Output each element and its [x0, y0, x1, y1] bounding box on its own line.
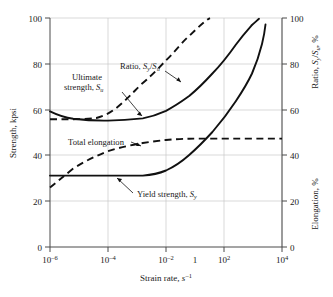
y-axis-right-bottom-title: Elongation, %	[310, 178, 320, 230]
strain-rate-chart: 100 80 60 40 20 0 100 80 60 40 20 0	[0, 0, 333, 297]
annotation-ultimate-line2: strength, Su	[64, 82, 103, 93]
y-tick-left-20: 20	[33, 197, 43, 207]
y-tick-left-100: 100	[29, 14, 43, 24]
annotation-ultimate-line1: Ultimate	[72, 72, 102, 82]
y-tick-left-0: 0	[38, 243, 43, 253]
x-tick-1: 1	[193, 255, 198, 265]
y-tick-left-40: 40	[33, 151, 43, 161]
annotation-yield-strength: Yield strength, Sy	[137, 189, 197, 200]
y-tick-left-60: 60	[33, 106, 43, 116]
y-tick-left-80: 80	[33, 60, 43, 70]
y-axis-right-top-title: Ratio, Sy/Su, %	[310, 35, 321, 89]
y-tick-right-0: 0	[290, 243, 295, 253]
annotation-total-elongation: Total elongation	[68, 137, 125, 147]
y-tick-right-80: 80	[290, 60, 300, 70]
y-axis-left-title: Strength, kpsi	[8, 108, 18, 159]
chart-figure: 100 80 60 40 20 0 100 80 60 40 20 0	[0, 0, 333, 297]
y-tick-right-100: 100	[290, 14, 304, 24]
annotation-ratio: Ratio, Sy/Su	[120, 61, 160, 72]
x-axis-title: Strain rate, s–1	[140, 272, 192, 284]
y-tick-right-40: 40	[290, 151, 300, 161]
y-tick-right-20: 20	[290, 197, 300, 207]
y-tick-right-60: 60	[290, 106, 300, 116]
